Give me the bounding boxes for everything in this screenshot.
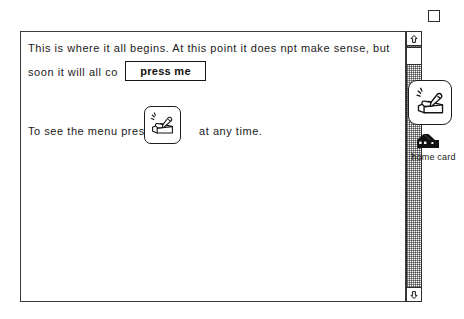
scroll-down-arrow-button[interactable] <box>407 287 421 301</box>
chevron-up-icon <box>409 34 419 44</box>
card-window: This is where it all begins. At this poi… <box>20 31 406 302</box>
scroll-up-arrow-button[interactable] <box>407 32 421 46</box>
palette-menu-icon-button[interactable] <box>408 80 452 125</box>
chevron-down-icon <box>409 290 419 300</box>
press-me-button-label: press me <box>140 65 191 77</box>
zoom-box[interactable] <box>428 10 440 22</box>
hand-pressing-card-icon <box>149 111 176 139</box>
card-body-line-1: This is where it all begins. At this poi… <box>28 42 390 54</box>
menu-icon-button[interactable] <box>144 106 181 144</box>
card-body-line-2: soon it will all co <box>28 66 118 78</box>
home-card-label: home card <box>403 152 464 162</box>
press-me-button[interactable]: press me <box>125 61 206 81</box>
scroll-thumb[interactable] <box>407 47 421 65</box>
vertical-scrollbar[interactable] <box>406 31 422 302</box>
house-icon[interactable] <box>416 131 440 149</box>
card-body-line-3-prefix: To see the menu press <box>28 125 151 137</box>
hand-pressing-card-icon <box>414 86 447 120</box>
card-body-line-3-suffix: at any time. <box>199 125 262 137</box>
